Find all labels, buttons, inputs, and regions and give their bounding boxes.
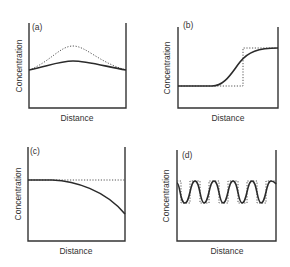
panel-b-evolved-profile [178, 48, 278, 86]
panel-b: (b) Distance Concentration [162, 20, 278, 123]
panel-b-tag: (b) [183, 20, 194, 30]
panel-c-tag: (c) [30, 146, 40, 156]
panel-d-tag: (d) [182, 150, 193, 160]
panel-d-xlabel: Distance [210, 246, 243, 256]
panel-c-xlabel: Distance [59, 246, 92, 256]
panel-a: (a) Distance Concentration [14, 22, 126, 123]
panel-c: (c) Distance Concentration [13, 146, 125, 256]
panel-b-xlabel: Distance [211, 113, 244, 123]
panel-b-ylabel: Concentration [162, 41, 172, 94]
panel-c-evolved-profile [28, 180, 125, 214]
panel-c-axes [28, 147, 125, 241]
panel-a-evolved-profile [29, 61, 126, 70]
panel-b-initial-profile [178, 48, 278, 86]
panel-b-axes [178, 27, 278, 108]
panel-a-ylabel: Concentration [14, 39, 24, 92]
panel-c-ylabel: Concentration [13, 167, 23, 220]
panel-d: (d) Distance Concentration [161, 150, 276, 256]
panel-d-ylabel: Concentration [161, 169, 171, 222]
panel-a-axes [29, 23, 126, 108]
panel-d-evolved-profile [177, 181, 276, 203]
diffusion-profiles-figure: (a) Distance Concentration (b) Distance … [0, 0, 290, 267]
panel-a-xlabel: Distance [60, 113, 93, 123]
panel-a-tag: (a) [32, 22, 43, 32]
